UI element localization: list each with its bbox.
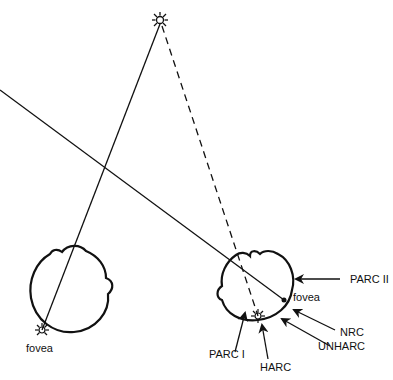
nrc-label: NRC (340, 326, 364, 338)
left-eye-globe (30, 246, 112, 332)
left-visual-axis-line (42, 24, 160, 330)
right-fovea-label: fovea (293, 291, 321, 303)
parc-ii-label: PARC II (350, 273, 389, 285)
parc-i-label: PARC I (209, 348, 245, 360)
unharc-label: UNHARC (318, 340, 365, 352)
harc-arrow (262, 325, 268, 359)
diagram-canvas: fovea fovea PARC II NRC UNHARC PARC I HA… (0, 0, 393, 380)
harc-label: HARC (260, 361, 291, 373)
target-star-icon (152, 12, 168, 26)
right-target-dashed-line (162, 26, 258, 316)
right-fovea-dot (282, 298, 287, 303)
right-eye-globe (218, 251, 294, 320)
nrc-arrow (294, 310, 335, 330)
right-visual-axis-line (0, 90, 284, 300)
left-fovea-label: fovea (26, 342, 54, 354)
